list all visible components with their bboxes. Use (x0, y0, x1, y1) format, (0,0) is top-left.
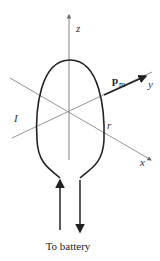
current-label: I (13, 112, 19, 124)
caption: To battery (46, 240, 91, 252)
y-axis (12, 72, 152, 138)
current-loop (37, 60, 105, 178)
z-label: z (75, 22, 81, 34)
moment-subscript: m (119, 80, 126, 89)
x-label: x (139, 156, 145, 168)
loop-diagram: z y x I r p m To battery (0, 0, 160, 261)
x-axis (10, 78, 151, 160)
radius-label: r (107, 119, 112, 131)
y-label: y (147, 78, 153, 90)
moment-label: p (112, 74, 118, 86)
